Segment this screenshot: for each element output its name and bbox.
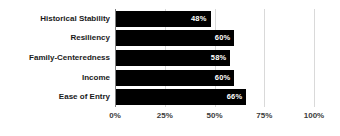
x-tick-label: 25%: [157, 109, 173, 123]
x-axis-tick-labels: 0%25%50%75%100%: [115, 109, 314, 123]
bar[interactable]: 66%: [115, 89, 246, 105]
y-axis-line: [115, 9, 116, 107]
x-tick-label: 100%: [304, 109, 324, 123]
bar-value-label: 66%: [227, 93, 243, 101]
bar-row: 66%: [115, 89, 314, 105]
bar-value-label: 58%: [211, 54, 227, 62]
bar[interactable]: 48%: [115, 11, 211, 27]
category-label: Income: [82, 70, 110, 86]
bar[interactable]: 60%: [115, 70, 234, 86]
gridline-100pct: [314, 9, 315, 107]
x-tick-label: 75%: [256, 109, 272, 123]
plot-area: 48%60%58%60%66%: [115, 9, 314, 107]
bar-row: 60%: [115, 30, 314, 46]
bar-row: 60%: [115, 70, 314, 86]
category-label: Ease of Entry: [59, 89, 110, 105]
category-labels: Historical StabilityResiliencyFamily-Cen…: [0, 9, 110, 107]
bar-chart: 48%60%58%60%66% Historical StabilityResi…: [0, 0, 340, 136]
x-tick-label: 50%: [206, 109, 222, 123]
bar-value-label: 60%: [215, 35, 231, 43]
x-tick-label: 0%: [109, 109, 121, 123]
bar[interactable]: 60%: [115, 30, 234, 46]
bar-rows: 48%60%58%60%66%: [115, 9, 314, 107]
bar-value-label: 60%: [215, 74, 231, 82]
category-label: Family-Centeredness: [29, 50, 110, 66]
category-label: Resiliency: [70, 30, 110, 46]
bar-row: 48%: [115, 11, 314, 27]
bar-row: 58%: [115, 50, 314, 66]
bar[interactable]: 58%: [115, 50, 230, 66]
category-label: Historical Stability: [40, 11, 110, 27]
bar-value-label: 48%: [191, 15, 207, 23]
